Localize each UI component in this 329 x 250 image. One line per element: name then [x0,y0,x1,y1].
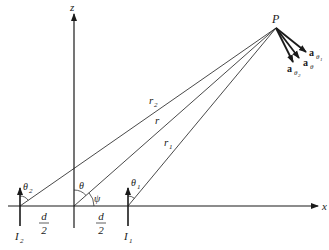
a-theta1-label: a θ 1 [309,47,323,62]
svg-text:1: 1 [169,143,173,151]
svg-text:θ: θ [23,181,28,192]
svg-text:2: 2 [20,237,24,245]
a-theta2-label: a θ 2 [287,63,301,78]
theta2-label: θ 2 [23,181,33,195]
svg-text:a: a [303,57,308,68]
svg-text:2: 2 [41,224,47,236]
svg-text:d: d [98,210,104,222]
svg-text:2: 2 [29,187,33,195]
theta1-label: θ 1 [131,177,141,191]
svg-text:2: 2 [154,101,158,109]
r1-label: r 1 [164,136,173,151]
a-theta-label: a θ [303,57,314,71]
z-axis-label: z [69,1,75,13]
psi-label: ψ [94,193,101,204]
theta2-arc [20,196,28,200]
r2-label: r 2 [149,94,158,109]
theta1-arc [128,196,134,198]
svg-text:θ: θ [131,177,136,188]
d-half-left: d 2 [39,210,49,236]
i2-label: I 2 [14,230,24,245]
a-theta2-vector [276,28,293,62]
svg-text:1: 1 [129,237,133,245]
svg-text:d: d [41,210,47,222]
svg-text:2: 2 [98,224,104,236]
theta-label: θ [79,180,84,191]
line-r2 [20,28,276,206]
svg-text:a: a [287,63,292,74]
x-axis-label: x [321,200,327,212]
svg-text:a: a [309,47,314,58]
dipole-array-diagram: x z P a θ 1 a θ a θ 2 r 2 r r 1 [0,0,329,250]
svg-text:r: r [155,114,160,126]
i1-label: I 1 [123,230,133,245]
svg-text:θ: θ [310,63,314,71]
r-label: r [155,114,160,126]
svg-text:1: 1 [320,57,323,62]
line-r [74,28,276,206]
point-p-label: P [271,12,280,26]
d-half-right: d 2 [96,210,106,236]
svg-text:2: 2 [298,73,301,78]
line-r1 [128,28,276,206]
svg-text:1: 1 [137,183,141,191]
